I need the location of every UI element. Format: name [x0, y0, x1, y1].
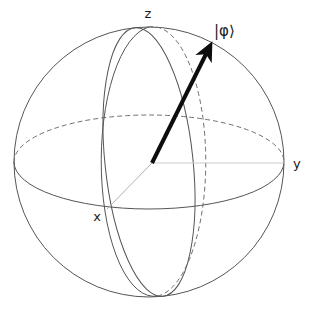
bloch-sphere-figure: z y x |φ⟩ — [0, 0, 315, 312]
x-axis-label: x — [93, 209, 101, 224]
bloch-sphere-canvas: z y x |φ⟩ — [0, 0, 315, 312]
y-axis-label: y — [293, 156, 301, 171]
state-vector-label: |φ⟩ — [214, 22, 235, 40]
z-axis-label: z — [145, 6, 152, 21]
